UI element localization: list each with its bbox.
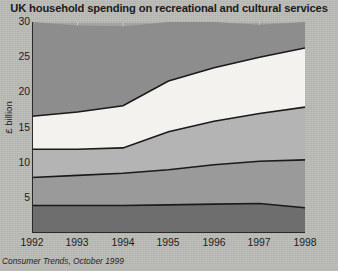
source-note: Consumer Trends, October 1999 xyxy=(2,256,124,266)
y-tick-5: 5 xyxy=(4,193,30,203)
x-tick-1992: 1992 xyxy=(12,238,52,248)
x-tick-1995: 1995 xyxy=(148,238,188,248)
y-tick-25: 25 xyxy=(4,52,30,62)
y-axis-title: £ billion xyxy=(3,88,14,148)
x-tick-1993: 1993 xyxy=(57,238,97,248)
x-tick-1994: 1994 xyxy=(103,238,143,248)
area-band-band-1 xyxy=(32,203,305,233)
stacked-area-chart xyxy=(32,22,305,233)
y-tick-10: 10 xyxy=(4,158,30,168)
x-axis-tick-layer: 1992 1993 1994 1995 1996 1997 1998 xyxy=(0,238,338,254)
x-tick-1997: 1997 xyxy=(239,238,279,248)
chart-title: UK household spending on recreational an… xyxy=(0,2,338,14)
plot-area xyxy=(32,22,305,233)
y-tick-30: 30 xyxy=(4,17,30,27)
x-tick-1996: 1996 xyxy=(194,238,234,248)
x-tick-1998: 1998 xyxy=(285,238,325,248)
